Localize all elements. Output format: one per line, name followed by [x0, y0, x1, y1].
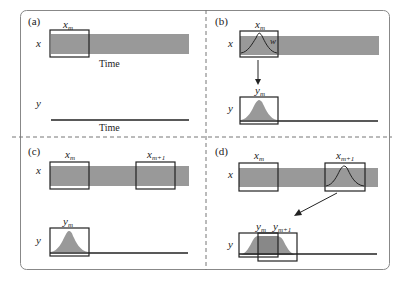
windowed-segment-shape	[241, 100, 277, 120]
y-axis-label: y	[35, 97, 41, 109]
y-axis-label: y	[227, 238, 233, 250]
overlap-region	[258, 236, 278, 255]
panel-label: (b)	[215, 15, 228, 28]
x-window-label: xm	[62, 18, 73, 32]
y-window-label: ym	[62, 215, 73, 229]
x-axis-label: x	[227, 168, 233, 180]
x-window2-label: xm+1	[146, 148, 165, 162]
x-signal-bar	[239, 168, 378, 187]
y-window2-label: ym+1	[272, 220, 291, 234]
y-time-label: Time	[99, 122, 120, 133]
windowed-segment-shape	[51, 231, 88, 252]
x-signal-bar	[51, 34, 189, 54]
y-window-label: ym	[255, 220, 266, 234]
x-signal-bar	[50, 166, 189, 186]
x-window-label: xm	[253, 149, 264, 163]
x-axis-label: x	[35, 164, 41, 176]
arrow-shaft	[299, 193, 337, 213]
x-window-label: xm	[254, 18, 265, 32]
x-signal-bar	[240, 36, 379, 55]
panel-label: (c)	[28, 145, 41, 158]
y-axis-label: y	[35, 234, 41, 246]
panel-a: (a) x xm Time y Time	[28, 15, 189, 133]
overlap-add-diagram: (a) x xm Time y Time (b) x xm w ym y (c)…	[0, 0, 400, 282]
x-axis-label: x	[35, 37, 41, 49]
x-axis-label: x	[227, 37, 233, 49]
panel-label: (a)	[28, 15, 41, 28]
panel-d: (d) x xm xm+1 ym ym+1 y	[215, 145, 378, 261]
x-time-label: Time	[99, 58, 120, 69]
x-window-label: xm	[64, 148, 75, 162]
y-axis-label: y	[227, 102, 233, 114]
x-window2-label: xm+1	[335, 149, 354, 163]
window-fn-label: w	[270, 36, 276, 46]
panel-b: (b) x xm w ym y	[215, 15, 379, 124]
panel-c: (c) x xm xm+1 ym y	[28, 145, 189, 256]
y-window-label: ym	[254, 84, 265, 98]
panel-label: (d)	[215, 145, 228, 158]
